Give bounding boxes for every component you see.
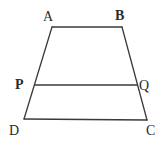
point-label-q: Q bbox=[139, 79, 149, 93]
vertex-label-b: B bbox=[115, 9, 124, 23]
geometry-figure: A B P Q D C bbox=[0, 0, 166, 158]
segment-cd bbox=[24, 119, 147, 120]
point-label-p: P bbox=[15, 78, 24, 92]
vertex-label-c: C bbox=[146, 124, 155, 138]
segment-bc bbox=[122, 27, 147, 120]
vertex-label-a: A bbox=[43, 10, 53, 24]
segment-da bbox=[24, 27, 52, 119]
vertex-label-d: D bbox=[9, 124, 19, 138]
